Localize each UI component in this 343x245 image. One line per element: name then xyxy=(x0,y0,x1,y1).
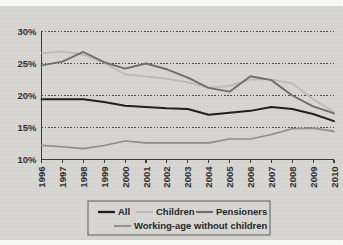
x-tick-label: 2004 xyxy=(203,166,214,188)
x-tick-label: 1999 xyxy=(99,167,110,188)
y-axis-tick-labels: 30%25%20%15%10% xyxy=(17,26,37,165)
gridlines xyxy=(42,32,335,160)
chart-canvas: 30%25%20%15%10% 199619971998199920002001… xyxy=(0,0,343,245)
series-line xyxy=(42,128,335,148)
x-tick-label: 1997 xyxy=(57,167,68,188)
x-axis-tick-labels: 1996199719981999200020012002200320042005… xyxy=(36,160,340,188)
x-tick-label: 2010 xyxy=(329,167,340,188)
x-tick-label: 2002 xyxy=(161,167,172,188)
y-tick-label: 25% xyxy=(17,58,37,69)
x-tick-label: 2005 xyxy=(224,166,235,188)
y-tick-label: 15% xyxy=(17,122,37,133)
series-line xyxy=(42,99,335,121)
y-tick-label: 20% xyxy=(17,90,37,101)
x-tick-label: 1998 xyxy=(78,167,89,188)
legend-label: Working-age without children xyxy=(134,220,268,231)
x-tick-label: 1996 xyxy=(36,167,47,188)
legend-label: Pensioners xyxy=(216,206,267,217)
y-tick-label: 10% xyxy=(17,154,37,165)
y-tick-label: 30% xyxy=(17,26,37,37)
x-tick-label: 2000 xyxy=(120,167,131,188)
x-tick-label: 2007 xyxy=(266,167,277,188)
x-tick-label: 2003 xyxy=(182,167,193,188)
data-series-group xyxy=(42,51,335,148)
chart-screenshot: 30%25%20%15%10% 199619971998199920002001… xyxy=(0,0,343,245)
line-chart: 30%25%20%15%10% 199619971998199920002001… xyxy=(0,0,343,245)
x-tick-label: 2008 xyxy=(287,167,298,188)
legend-label: All xyxy=(118,206,130,217)
x-tick-label: 2001 xyxy=(141,166,152,188)
legend-label: Children xyxy=(156,206,195,217)
series-line xyxy=(42,51,335,112)
x-tick-label: 2006 xyxy=(245,167,256,188)
legend: AllChildrenPensionersWorking-age without… xyxy=(88,201,270,235)
x-tick-label: 2009 xyxy=(308,167,319,188)
